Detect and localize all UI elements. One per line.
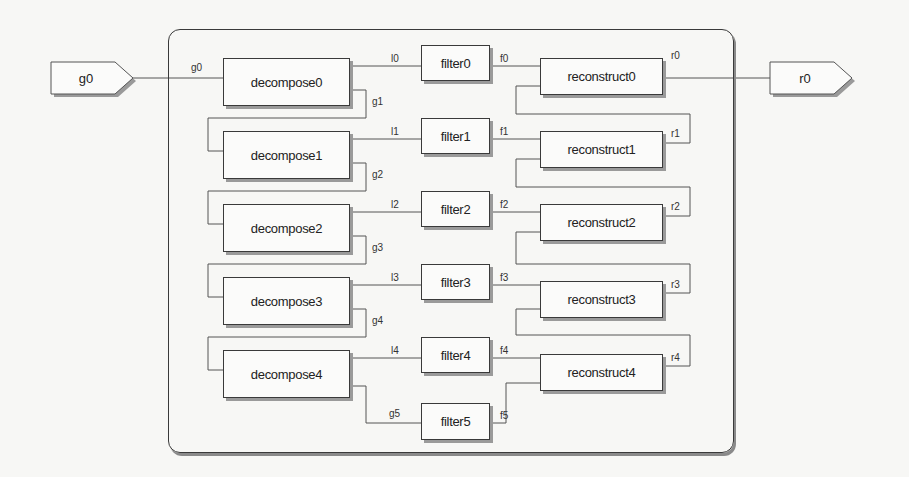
signal-label-r0: r0 (671, 51, 680, 61)
filter4-block[interactable]: filter4 (421, 337, 490, 373)
signal-label-g3: g3 (372, 243, 383, 253)
signal-label-g2: g2 (372, 170, 383, 180)
filter5-block[interactable]: filter5 (421, 403, 490, 440)
signal-label-l2: l2 (391, 200, 399, 210)
input-port-label: g0 (79, 71, 93, 86)
reconstruct0-block[interactable]: reconstruct0 (540, 58, 663, 95)
decompose4-block[interactable]: decompose4 (223, 350, 350, 398)
reconstruct1-block[interactable]: reconstruct1 (540, 131, 663, 168)
signal-label-f2: f2 (500, 200, 508, 210)
decompose1-block[interactable]: decompose1 (223, 131, 350, 179)
filter1-block[interactable]: filter1 (421, 118, 490, 154)
decompose2-block[interactable]: decompose2 (223, 204, 350, 252)
decompose0-block[interactable]: decompose0 (223, 58, 350, 106)
signal-label-r1: r1 (671, 129, 680, 139)
signal-label-f3: f3 (500, 273, 508, 283)
output-port-r0[interactable]: r0 (770, 62, 840, 94)
signal-label-f5: f5 (500, 411, 508, 421)
reconstruct2-block[interactable]: reconstruct2 (540, 204, 663, 241)
signal-label-f4: f4 (500, 346, 508, 356)
filter3-block[interactable]: filter3 (421, 264, 490, 300)
signal-label-g5: g5 (389, 409, 400, 419)
filter2-block[interactable]: filter2 (421, 191, 490, 227)
decompose3-block[interactable]: decompose3 (223, 277, 350, 325)
signal-label-r4: r4 (671, 353, 680, 363)
signal-label-g4: g4 (372, 316, 383, 326)
reconstruct4-block[interactable]: reconstruct4 (540, 354, 663, 391)
filter0-block[interactable]: filter0 (421, 45, 490, 81)
input-port-g0[interactable]: g0 (51, 62, 121, 94)
reconstruct3-block[interactable]: reconstruct3 (540, 281, 663, 318)
output-port-label: r0 (799, 71, 811, 86)
signal-label-f0: f0 (500, 54, 508, 64)
signal-label-g0: g0 (191, 63, 202, 73)
signal-label-l1: l1 (391, 127, 399, 137)
signal-label-f1: f1 (500, 127, 508, 137)
signal-label-r2: r2 (671, 202, 680, 212)
signal-label-l3: l3 (391, 273, 399, 283)
signal-label-l0: l0 (391, 54, 399, 64)
signal-label-l4: l4 (391, 346, 399, 356)
signal-label-r3: r3 (671, 280, 680, 290)
signal-label-g1: g1 (372, 97, 383, 107)
